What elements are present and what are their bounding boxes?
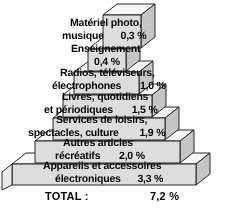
step-5-value: 1,9 % — [139, 127, 165, 139]
step-4-title-line1: Livres, quotidiens — [62, 91, 148, 103]
total-label: TOTAL : — [45, 190, 89, 202]
step-label-6-line1: Autres articles — [63, 138, 133, 149]
step-label-5-line1: Services de loisirs, — [56, 115, 147, 126]
step-label-2-line1: Enseignement — [71, 44, 140, 55]
step-label-1-line2: musique 0,3 % — [62, 31, 146, 42]
step-1-value: 0,3 % — [121, 30, 147, 42]
step-7-value: 3,3 % — [137, 173, 163, 185]
step-6-title-line1: Autres articles — [63, 137, 133, 149]
step-label-4-line1: Livres, quotidiens — [62, 92, 148, 103]
total-value: 7,2 % — [150, 190, 179, 202]
base-left-edge — [2, 164, 12, 190]
step-1-title-line1: Matériel photo, — [70, 17, 142, 29]
step-label-7-line1: Appareils et accessoires — [43, 161, 161, 172]
step-7-title-line1: Appareils et accessoires — [43, 160, 161, 172]
step-label-1-line1: Matériel photo, — [70, 18, 142, 29]
staircase-chart: Matériel photo, musique 0,3 % Enseigneme… — [0, 0, 243, 214]
step-label-3-line1: Radios, téléviseurs, — [60, 68, 155, 79]
step-3-title-line1: Radios, téléviseurs, — [60, 67, 155, 79]
step-1-title-line2: musique — [62, 30, 104, 42]
step-label-7-line2: électroniques 3,3 % — [55, 174, 163, 185]
step-2-title-line1: Enseignement — [71, 43, 140, 55]
step-5-title-line1: Services de loisirs, — [56, 114, 147, 126]
step-7-title-line2: électroniques — [55, 173, 121, 185]
